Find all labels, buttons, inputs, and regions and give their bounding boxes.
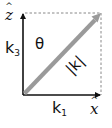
k3-label: k3 (5, 40, 20, 56)
k-vector-shaft (25, 20, 96, 94)
vector-diagram: ^ z k3 θ |k| k1 ^ x (0, 0, 112, 128)
k1-subscript: 1 (61, 108, 67, 118)
k1-base: k (52, 98, 61, 117)
x-hat-mark: ^ (90, 96, 98, 105)
k3-base: k (5, 38, 14, 57)
k1-label: k1 (52, 100, 67, 116)
theta-label: θ (35, 37, 44, 52)
z-hat-mark: ^ (5, 2, 13, 11)
x-axis-label: ^ x (90, 102, 98, 117)
k3-subscript: 3 (14, 48, 20, 58)
z-axis-label: ^ z (5, 8, 13, 23)
